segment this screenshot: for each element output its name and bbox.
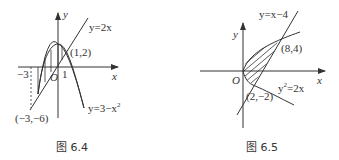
figure-6-4: y x O −3 1 y=2x (1,2) (−3,−6) y=3−x2 图 6… [15, 8, 121, 154]
tick-label-neg3: −3 [17, 68, 29, 80]
figures-canvas: y x O −3 1 y=2x (1,2) (−3,−6) y=3−x2 图 6… [0, 0, 339, 160]
curve-label-y-3-x2: y=3−x2 [88, 101, 121, 114]
point-label-2-neg2: (2,−2) [246, 90, 274, 103]
x-axis-label: x [316, 74, 322, 86]
figure-caption: 图 6.4 [56, 141, 88, 154]
curve-label-y-2x: y=2x [89, 21, 112, 33]
line-y-2x [30, 18, 88, 110]
point-label-8-4: (8,4) [281, 42, 302, 55]
figure-caption: 图 6.5 [246, 141, 278, 154]
x-axis-label: x [111, 70, 117, 82]
y-axis-label: y [62, 8, 68, 20]
tick-label-1: 1 [62, 68, 68, 80]
curve-label-y-x-4: y=x−4 [259, 8, 288, 20]
figure-6-5: y x O y=x−4 (8,4) (2,−2) y2=2x 图 6.5 [200, 8, 325, 154]
origin-label: O [232, 74, 240, 86]
origin-label: O [50, 71, 58, 83]
curve-label-y2-2x: y2=2x [278, 81, 305, 94]
point-label-1-2: (1,2) [70, 46, 91, 59]
y-axis-label: y [232, 28, 238, 40]
point-label-neg3-neg6: (−3,−6) [15, 112, 49, 125]
